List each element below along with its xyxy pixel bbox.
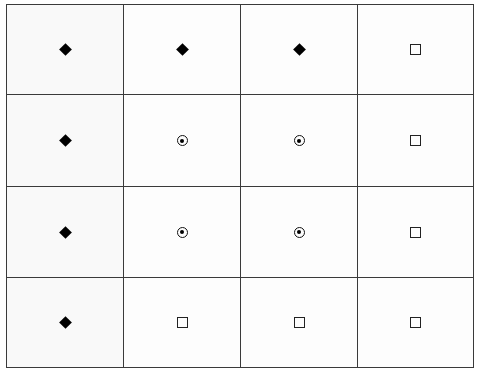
- circled-dot-icon: [294, 227, 305, 238]
- grid-cell-r1-c3: [241, 5, 358, 95]
- grid-cell-r3-c4: [358, 187, 473, 278]
- circled-dot-icon: [294, 135, 305, 146]
- grid-cell-r1-c4: [358, 5, 473, 95]
- grid-cell-r3-c2: [124, 187, 241, 278]
- circled-dot-icon: [177, 227, 188, 238]
- symbol-grid: [6, 4, 474, 368]
- grid-cell-r2-c3: [241, 95, 358, 187]
- grid-cell-r4-c1: [7, 278, 124, 367]
- open-square-icon: [410, 227, 421, 238]
- filled-diamond-icon: [59, 43, 72, 56]
- open-square-icon: [177, 317, 188, 328]
- open-square-icon: [410, 44, 421, 55]
- grid-cell-r2-c1: [7, 95, 124, 187]
- grid-cell-r2-c4: [358, 95, 473, 187]
- open-square-icon: [410, 317, 421, 328]
- open-square-icon: [410, 135, 421, 146]
- filled-diamond-icon: [176, 43, 189, 56]
- filled-diamond-icon: [293, 43, 306, 56]
- grid-cell-r1-c2: [124, 5, 241, 95]
- grid-cell-r2-c2: [124, 95, 241, 187]
- grid-cell-r3-c1: [7, 187, 124, 278]
- filled-diamond-icon: [59, 226, 72, 239]
- filled-diamond-icon: [59, 134, 72, 147]
- open-square-icon: [294, 317, 305, 328]
- grid-cell-r1-c1: [7, 5, 124, 95]
- grid-cell-r4-c2: [124, 278, 241, 367]
- grid-cell-r4-c4: [358, 278, 473, 367]
- circled-dot-icon: [177, 135, 188, 146]
- grid-cell-r4-c3: [241, 278, 358, 367]
- filled-diamond-icon: [59, 316, 72, 329]
- grid-cell-r3-c3: [241, 187, 358, 278]
